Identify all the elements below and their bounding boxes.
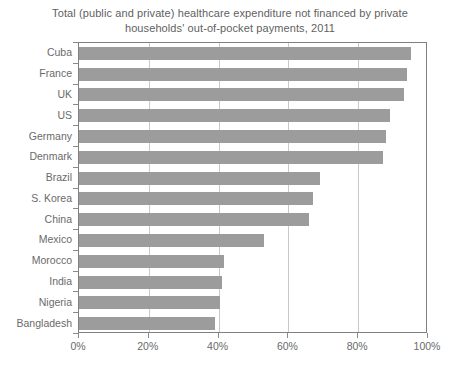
chart-title: Total (public and private) healthcare ex… [40,6,420,36]
y-axis-tick [73,63,78,64]
x-axis-label: 20% [123,340,173,352]
bar-row [79,213,426,226]
y-axis-tick [73,167,78,168]
y-axis-label: Morocco [0,254,72,266]
y-axis-tick [73,250,78,251]
x-axis-label: 80% [332,340,382,352]
y-axis-label: Nigeria [0,296,72,308]
x-axis-label: 0% [53,340,103,352]
bar [79,213,309,226]
bar [79,130,386,143]
y-axis-label: Germany [0,130,72,142]
y-axis-label: US [0,109,72,121]
bar-row [79,47,426,60]
bar-row [79,317,426,330]
bar-row [79,109,426,122]
y-axis-label: France [0,67,72,79]
x-axis-tick [78,333,79,338]
bar [79,234,264,247]
bar-chart: Total (public and private) healthcare ex… [0,0,459,370]
y-axis-label: China [0,213,72,225]
bar-row [79,234,426,247]
y-axis-label: Mexico [0,233,72,245]
y-axis-label: S. Korea [0,192,72,204]
x-axis-tick [357,333,358,338]
bar [79,109,390,122]
bar-row [79,68,426,81]
bar [79,47,411,60]
y-axis-tick [73,312,78,313]
bar-row [79,151,426,164]
bar-row [79,192,426,205]
y-axis-label: Denmark [0,150,72,162]
bar [79,317,215,330]
y-axis-tick [73,84,78,85]
bar [79,255,224,268]
y-axis-label: Brazil [0,171,72,183]
y-axis-tick [73,271,78,272]
bar [79,276,222,289]
x-axis-label: 100% [402,340,452,352]
bar [79,296,220,309]
y-axis-tick [73,125,78,126]
y-axis-tick [73,104,78,105]
x-axis-label: 60% [262,340,312,352]
y-axis-label: UK [0,88,72,100]
bar [79,151,383,164]
bar [79,172,320,185]
chart-title-line-2: households' out-of-pocket payments, 2011 [40,21,420,36]
y-axis-tick [73,208,78,209]
y-axis-label: Bangladesh [0,317,72,329]
bar-row [79,296,426,309]
bar-row [79,88,426,101]
y-axis-tick [73,229,78,230]
bar-row [79,255,426,268]
chart-title-line-1: Total (public and private) healthcare ex… [40,6,420,21]
x-axis-tick [218,333,219,338]
y-axis-tick [73,146,78,147]
y-axis-label: Cuba [0,46,72,58]
x-axis-tick [287,333,288,338]
x-axis-label: 40% [193,340,243,352]
bar [79,68,407,81]
y-axis-tick [73,291,78,292]
y-axis-labels: CubaFranceUKUSGermanyDenmarkBrazilS. Kor… [0,42,72,333]
bar-row [79,130,426,143]
bar [79,88,404,101]
bar [79,192,313,205]
y-axis-tick [73,188,78,189]
plot-area [78,42,427,333]
bars-layer [79,43,426,332]
bar-row [79,276,426,289]
bar-row [79,172,426,185]
y-axis-label: India [0,275,72,287]
x-axis-tick [427,333,428,338]
x-axis-tick [148,333,149,338]
y-axis-tick [73,42,78,43]
